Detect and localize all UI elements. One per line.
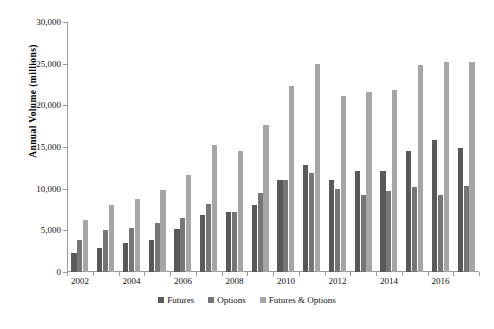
plot-area: 05,00010,00015,00020,00025,00030,000 200… xyxy=(67,22,479,272)
bar xyxy=(252,205,257,273)
bar xyxy=(283,180,288,272)
x-axis-tick-mark xyxy=(119,272,120,276)
x-axis-tick-mark xyxy=(144,272,145,276)
bar xyxy=(123,243,128,272)
legend-item[interactable]: Options xyxy=(208,295,246,305)
bar-group xyxy=(119,22,145,272)
x-axis-tick-mark xyxy=(170,272,171,276)
legend-item[interactable]: Futures xyxy=(158,295,194,305)
bar xyxy=(277,180,282,273)
bar xyxy=(97,248,102,272)
bar xyxy=(386,191,391,272)
bar xyxy=(135,199,140,272)
bar xyxy=(109,205,114,273)
bar xyxy=(186,175,191,273)
y-axis-tick-label: 0 xyxy=(57,267,62,277)
chart-figure: Annual Volume (millions) 05,00010,00015,… xyxy=(0,0,494,329)
legend-item-label: Options xyxy=(217,295,246,305)
x-axis-tick-mark xyxy=(376,272,377,276)
bar xyxy=(335,189,340,272)
bar-group xyxy=(376,22,402,272)
x-axis-tick-mark xyxy=(222,272,223,276)
x-axis-tick-mark xyxy=(325,272,326,276)
bar xyxy=(380,171,385,272)
bar xyxy=(469,62,474,272)
bar xyxy=(341,96,346,272)
x-axis-tick-label: 2016 xyxy=(431,276,449,286)
legend-swatch-icon xyxy=(260,297,266,303)
x-axis-tick-label: 2010 xyxy=(277,276,295,286)
x-axis-tick-mark xyxy=(299,272,300,276)
bar xyxy=(289,86,294,272)
bar xyxy=(71,253,76,272)
x-axis-tick-mark xyxy=(479,272,480,276)
bar xyxy=(315,64,320,272)
bar-group xyxy=(222,22,248,272)
bar-group xyxy=(325,22,351,272)
bar xyxy=(263,125,268,273)
bar xyxy=(160,190,165,272)
bar xyxy=(309,173,314,272)
bar-group xyxy=(196,22,222,272)
y-axis-tick-label: 10,000 xyxy=(36,184,61,194)
bar xyxy=(355,171,360,272)
y-axis-tick-label: 20,000 xyxy=(36,100,61,110)
y-axis-tick-label: 30,000 xyxy=(36,17,61,27)
x-axis-tick-mark xyxy=(93,272,94,276)
bar xyxy=(238,151,243,272)
bar-group xyxy=(144,22,170,272)
legend-item[interactable]: Futures & Options xyxy=(260,295,336,305)
bar xyxy=(149,240,154,273)
bar xyxy=(392,90,397,273)
bar xyxy=(458,148,463,272)
bar xyxy=(258,193,263,272)
bar xyxy=(155,223,160,272)
bar xyxy=(432,140,437,273)
bar-group xyxy=(93,22,119,272)
bar xyxy=(406,151,411,272)
y-axis-tick-label: 5,000 xyxy=(41,225,61,235)
bar xyxy=(206,204,211,272)
legend-swatch-icon xyxy=(208,297,214,303)
bar-group xyxy=(170,22,196,272)
x-axis-tick-mark xyxy=(350,272,351,276)
bar-group xyxy=(273,22,299,272)
bar xyxy=(464,186,469,272)
bar-group xyxy=(299,22,325,272)
x-axis-tick-mark xyxy=(67,272,68,276)
bar-group xyxy=(453,22,479,272)
x-axis-tick-mark xyxy=(402,272,403,276)
x-axis-tick-label: 2008 xyxy=(225,276,243,286)
legend-item-label: Futures & Options xyxy=(269,295,336,305)
bar xyxy=(103,230,108,273)
bar xyxy=(438,195,443,273)
bar xyxy=(174,229,179,272)
bar-group xyxy=(428,22,454,272)
x-axis-tick-label: 2014 xyxy=(380,276,398,286)
bar-group xyxy=(67,22,93,272)
x-axis-tick-mark xyxy=(273,272,274,276)
x-axis-tick-mark xyxy=(453,272,454,276)
bar xyxy=(444,62,449,272)
bar-group xyxy=(402,22,428,272)
bar xyxy=(83,220,88,272)
x-axis-tick-label: 2002 xyxy=(71,276,89,286)
x-axis-tick-mark xyxy=(196,272,197,276)
y-axis-tick-label: 15,000 xyxy=(36,142,61,152)
bar xyxy=(180,218,185,272)
y-axis-tick-label: 25,000 xyxy=(36,59,61,69)
bar xyxy=(412,187,417,272)
bar xyxy=(418,65,423,272)
x-axis-tick-mark xyxy=(247,272,248,276)
bar xyxy=(303,165,308,273)
x-axis-tick-label: 2004 xyxy=(122,276,140,286)
bar xyxy=(226,212,231,272)
bar xyxy=(366,92,371,272)
x-axis-tick-label: 2012 xyxy=(328,276,346,286)
legend-swatch-icon xyxy=(158,297,164,303)
bar xyxy=(361,195,366,273)
x-axis-tick-mark xyxy=(428,272,429,276)
bar-group xyxy=(350,22,376,272)
x-axis-tick-label: 2006 xyxy=(174,276,192,286)
chart-legend: FuturesOptionsFutures & Options xyxy=(0,295,494,305)
